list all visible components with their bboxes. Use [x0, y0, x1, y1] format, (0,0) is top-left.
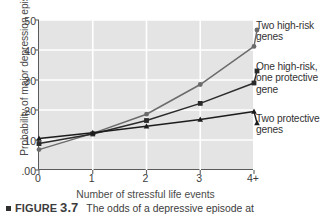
caption-number: 3.7: [60, 200, 78, 215]
legend-label-line: genes: [256, 31, 314, 42]
legend-label-line: genes: [256, 124, 320, 135]
data-point-circle: [198, 82, 203, 87]
x-tick-label: 3: [196, 172, 202, 184]
legend-item-two-high-risk-genes: Two high-risk genes: [256, 20, 314, 43]
data-point-square: [198, 101, 203, 106]
x-axis-title: Number of stressful life events: [38, 189, 253, 200]
data-point-circle: [37, 147, 42, 152]
data-point-square: [144, 118, 149, 123]
x-tick-label: 2: [143, 172, 149, 184]
data-series-layer: [36, 28, 260, 152]
data-point-square: [37, 141, 42, 146]
legend-item-two-protective-genes: Two protective genes: [256, 113, 320, 136]
legend-label-line: gene: [256, 84, 318, 95]
y-tick-label: .20: [14, 106, 36, 117]
y-tick-label: .10: [14, 136, 36, 147]
legend-label-line: One high-risk,: [256, 61, 318, 72]
legend-label-line: one protective: [256, 72, 318, 83]
legend-item-one-high-risk-one-protective-gene: One high-risk, one protective gene: [256, 61, 318, 95]
legend-label-line: Two protective: [256, 113, 320, 124]
y-tick-label: .30: [14, 76, 36, 87]
figure-container: Probability of major depression episode …: [0, 0, 326, 220]
x-tick-label: 0: [35, 172, 41, 184]
plot-area: [38, 20, 253, 170]
x-tick-label: 1: [89, 172, 95, 184]
legend-label-line: Two high-risk: [256, 20, 314, 31]
chart-svg: [39, 20, 254, 170]
figure-caption: FIGURE 3.7 The odds of a depressive epis…: [6, 201, 326, 216]
caption-label: FIGURE: [15, 202, 57, 214]
y-tick-label: .50: [14, 16, 36, 27]
data-point-circle: [144, 112, 149, 117]
x-tick-label: 4+: [247, 172, 259, 184]
caption-bullet-icon: [6, 206, 11, 211]
x-axis-tick-labels: 0 1 2 3 4+: [38, 172, 253, 188]
y-tick-label: .00: [14, 166, 36, 177]
caption-text: The odds of a depressive episode at: [86, 203, 254, 214]
y-axis-tick-labels: .50 .40 .30 .20 .10 .00: [14, 0, 36, 220]
y-tick-label: .40: [14, 46, 36, 57]
